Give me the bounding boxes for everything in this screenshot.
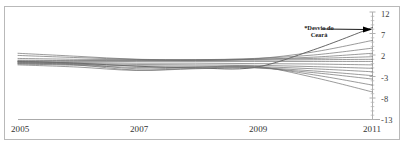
y-tick-label-minus3: -3 [381, 73, 388, 83]
series-line [18, 64, 373, 76]
y-tick-label-2: 2 [381, 51, 385, 61]
y-tick-label-12: 12 [381, 9, 390, 19]
y-tick-label-7: 7 [381, 30, 385, 40]
annotation-label: *Desvio do Ceará [297, 24, 341, 38]
x-tick-label-2011: 2011 [363, 124, 381, 134]
series-line [18, 61, 373, 92]
x-tick-label-2007: 2007 [130, 124, 148, 134]
series-line [18, 62, 373, 85]
figure-container: 12 7 2 -3 -8 -13 2005 2007 2009 2011 *De… [0, 0, 405, 151]
x-tick-label-2009: 2009 [249, 124, 267, 134]
x-tick-label-2005: 2005 [11, 124, 29, 134]
y-tick-label-minus8: -8 [381, 94, 388, 104]
y-tick-label-minus13: -13 [381, 115, 393, 125]
chart-plot-area [0, 0, 405, 151]
annotation-arrowhead [363, 26, 372, 32]
